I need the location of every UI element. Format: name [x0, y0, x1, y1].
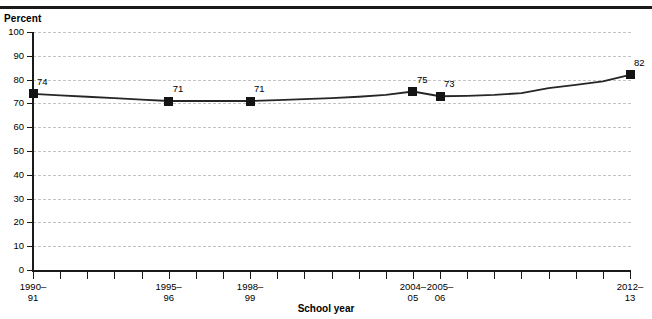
plot-area: 0102030405060708090100 1990– 911995– 961… — [0, 0, 652, 319]
data-point-label: 74 — [37, 76, 48, 87]
data-line-svg — [0, 0, 652, 319]
data-point-label: 82 — [634, 57, 645, 68]
data-point-marker — [29, 89, 38, 98]
data-point-marker — [408, 87, 417, 96]
chart-page: Percent 0102030405060708090100 1990– 911… — [0, 0, 652, 319]
data-point-label: 71 — [173, 83, 184, 94]
data-point-label: 73 — [444, 78, 455, 89]
data-point-marker — [626, 70, 635, 79]
data-point-label: 71 — [254, 83, 265, 94]
x-axis-title: School year — [0, 303, 652, 314]
data-point-marker — [164, 97, 173, 106]
data-point-label: 75 — [417, 74, 428, 85]
data-point-marker — [436, 92, 445, 101]
data-series-line — [33, 75, 630, 101]
data-point-marker — [246, 97, 255, 106]
